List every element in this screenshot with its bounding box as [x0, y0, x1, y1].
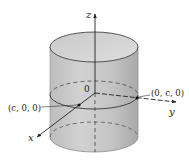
x-axis-label: x [28, 132, 34, 143]
y-axis-label: y [168, 106, 175, 117]
point-c00-label: (c, 0, 0) [8, 103, 41, 113]
point-0c0-label: (0, c, 0) [151, 88, 184, 98]
z-axis-label: z [85, 9, 92, 20]
point-0c0: (0, c, 0) [135, 88, 184, 100]
cylinder-diagram: z x y 0 (c, 0, 0) (0, c, 0) [0, 0, 189, 165]
cylinder [50, 32, 138, 152]
cylinder-top-face [50, 32, 138, 62]
origin-label: 0 [84, 84, 90, 94]
cylinder-body [50, 47, 138, 152]
point-0c0-leader [138, 95, 150, 97]
